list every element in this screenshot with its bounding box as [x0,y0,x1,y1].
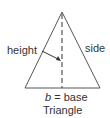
figure-title: Triangle [43,105,82,116]
base-variable: b [45,91,51,103]
arrowhead-icon [56,56,61,61]
height-label: height [7,45,37,56]
base-equation: = base [54,91,87,103]
side-label: side [85,43,105,54]
base-label: b = base [45,92,88,103]
